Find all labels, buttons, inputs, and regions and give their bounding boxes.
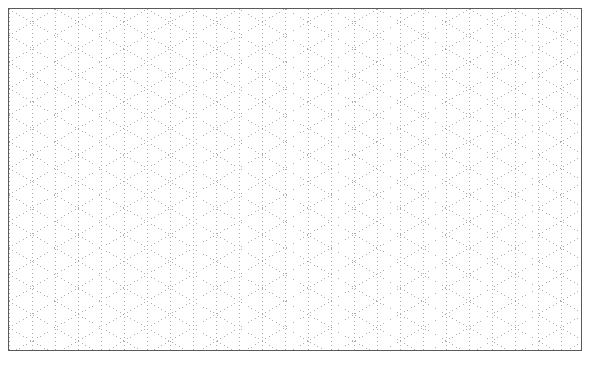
grid-line-diagonal-up-right <box>9 9 581 328</box>
grid-line-diagonal-up-right <box>9 9 581 195</box>
grid-border <box>8 8 582 351</box>
grid-line-diagonal-up-right <box>9 183 581 350</box>
grid-line-diagonal-down-right <box>9 328 581 350</box>
grid-line-diagonal-down-right <box>9 9 581 74</box>
grid-line-diagonal-down-right <box>9 62 581 350</box>
grid-line-diagonal-down-right <box>9 36 581 350</box>
grid-line-diagonal-down-right <box>9 9 581 21</box>
page-canvas <box>0 0 589 369</box>
vertical-lines-group <box>9 9 561 350</box>
grid-line-diagonal-up-right <box>9 9 581 168</box>
grid-line-diagonal-down-right <box>9 301 581 350</box>
diagonal-lines-up-right-group <box>9 9 581 350</box>
grid-line-diagonal-up-right <box>9 9 581 36</box>
grid-line-diagonal-down-right <box>9 195 581 350</box>
grid-line-diagonal-up-right <box>9 9 581 89</box>
grid-line-diagonal-down-right <box>9 9 581 260</box>
grid-line-diagonal-up-right <box>9 9 581 275</box>
grid-line-diagonal-up-right <box>9 77 581 350</box>
grid-line-diagonal-down-right <box>9 9 581 153</box>
isometric-grid <box>9 9 581 350</box>
grid-line-diagonal-up-right <box>9 9 581 142</box>
grid-line-diagonal-up-right <box>9 290 581 350</box>
diagonal-lines-down-right-group <box>9 9 581 350</box>
grid-line-diagonal-up-right <box>9 343 581 350</box>
grid-line-diagonal-up-right <box>9 316 581 350</box>
grid-line-diagonal-up-right <box>9 9 581 115</box>
grid-line-diagonal-down-right <box>9 168 581 350</box>
grid-line-diagonal-down-right <box>9 9 581 339</box>
grid-line-diagonal-down-right <box>9 9 581 47</box>
grid-line-diagonal-up-right <box>9 130 581 350</box>
grid-line-diagonal-down-right <box>9 9 581 206</box>
grid-line-diagonal-down-right <box>9 9 581 100</box>
grid-line-diagonal-down-right <box>9 9 581 286</box>
grid-line-diagonal-up-right <box>9 210 581 350</box>
grid-line-diagonal-down-right <box>9 9 581 233</box>
grid-line-diagonal-up-right <box>9 263 581 350</box>
grid-line-diagonal-up-right <box>9 236 581 350</box>
grid-line-diagonal-up-right <box>9 24 581 350</box>
grid-line-diagonal-down-right <box>9 221 581 350</box>
grid-line-diagonal-up-right <box>9 9 581 301</box>
grid-line-diagonal-down-right <box>9 89 581 350</box>
grid-line-diagonal-down-right <box>9 142 581 350</box>
grid-line-diagonal-up-right <box>9 157 581 350</box>
grid-line-diagonal-up-right <box>9 51 581 350</box>
grid-line-diagonal-up-right <box>9 9 581 248</box>
grid-line-diagonal-down-right <box>9 248 581 350</box>
grid-line-diagonal-up-right <box>9 104 581 350</box>
grid-line-diagonal-down-right <box>9 275 581 350</box>
grid-line-diagonal-up-right <box>9 9 581 221</box>
grid-line-diagonal-down-right <box>9 115 581 350</box>
grid-line-diagonal-up-right <box>9 9 581 62</box>
grid-line-diagonal-down-right <box>9 9 581 313</box>
